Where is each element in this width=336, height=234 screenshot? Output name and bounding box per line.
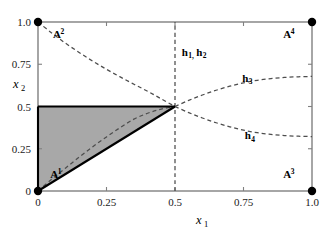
x-tick-label: 0.5 <box>168 196 182 208</box>
x-axis-title-subscript: 1 <box>204 219 208 229</box>
vertex-dot-A4 <box>308 18 316 26</box>
x-tick-label: 1.0 <box>305 196 319 208</box>
y-axis-title: x <box>12 77 19 91</box>
y-tick-label: 0.5 <box>17 101 31 113</box>
x-axis-title: x <box>195 213 202 227</box>
vertex-label-superscript: 3 <box>291 167 295 176</box>
y-tick-label: 0.25 <box>12 143 32 155</box>
vertex-label-superscript: 2 <box>61 27 65 36</box>
y-tick-label: 1.0 <box>17 16 31 28</box>
curve-label-h1-subscript: 1, <box>188 51 194 60</box>
vertex-dot-A3 <box>308 187 316 195</box>
curve-label-h2-base: h <box>196 46 202 58</box>
curve-label-base: h <box>245 129 251 141</box>
vertex-label-superscript: 1 <box>58 167 62 176</box>
curve-label-h2-subscript: 2 <box>203 51 207 60</box>
vertex-dot-A1 <box>34 187 42 195</box>
unit-square-best-response-plot: 00.250.50.751.0 00.250.50.751.0 A1A2A3A4… <box>0 0 336 234</box>
y-tick-label: 0.75 <box>12 58 32 70</box>
curve-label-base: h <box>242 72 248 84</box>
figure-container: 00.250.50.751.0 00.250.50.751.0 A1A2A3A4… <box>0 0 336 234</box>
curve-label-subscript: 3 <box>249 77 253 86</box>
curve-label-subscript: 4 <box>251 135 255 144</box>
x-tick-label: 0.25 <box>97 196 117 208</box>
x-tick-label: 0 <box>35 196 41 208</box>
x-tick-label: 0.75 <box>234 196 254 208</box>
curve-label-h1-base: h <box>182 46 188 58</box>
vertex-dot-A2 <box>34 18 42 26</box>
y-axis-title-subscript: 2 <box>21 83 25 93</box>
y-tick-label: 0 <box>26 185 32 197</box>
vertex-label-superscript: 4 <box>291 27 295 36</box>
